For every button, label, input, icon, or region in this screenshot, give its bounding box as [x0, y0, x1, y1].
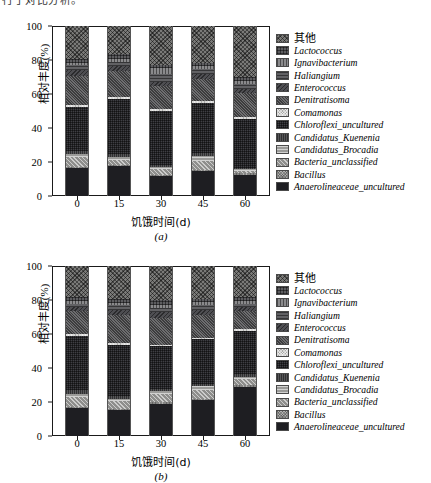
x-tick-mark [77, 196, 78, 200]
legend-swatch-icon [276, 71, 289, 80]
legend: 其他LactococcusIgnavibacteriumHaliangiumEn… [276, 272, 428, 433]
bar-segment [192, 266, 214, 299]
x-tick-mark [245, 436, 246, 440]
stacked-bar[interactable] [233, 266, 257, 436]
legend-item-label: Comamonas [294, 348, 342, 358]
legend-item[interactable]: Chloroflexi_uncultured [276, 359, 428, 371]
legend-item[interactable]: Comamonas [276, 346, 428, 358]
legend-item-label: Candidatus_Brocadia [294, 385, 378, 395]
bar-segment [66, 397, 88, 406]
y-tick-label: 20 [32, 397, 43, 408]
bar-segment [66, 408, 88, 436]
bar-segment [192, 161, 214, 170]
legend-swatch-icon [276, 398, 289, 407]
legend-item[interactable]: Candidatus_Kuenenia [276, 371, 428, 383]
y-axis-label: 相对丰度(%) [35, 268, 51, 360]
x-tick-label: 30 [149, 438, 173, 454]
legend-item[interactable]: Haliangium [276, 309, 428, 321]
stacked-bar[interactable] [191, 26, 215, 196]
legend-item-label: Lactococcus [294, 46, 342, 56]
legend-item[interactable]: Ignavibacterium [276, 297, 428, 309]
subfigure-label: (b) [52, 470, 270, 482]
legend-item-label: Bacillus [294, 410, 325, 420]
bar-group [52, 266, 270, 436]
legend-item[interactable]: Haliangium [276, 69, 428, 81]
bar-segment [234, 175, 256, 196]
bar-segment [66, 311, 88, 334]
legend-item-label: Anaerolineaceae_uncultured [294, 422, 405, 432]
bar-segment [108, 26, 130, 54]
bar-segment [150, 74, 172, 82]
stacked-bar[interactable] [65, 26, 89, 196]
legend-item[interactable]: Chloroflexi_uncultured [276, 119, 428, 131]
legend-item-label: Denitratisoma [294, 95, 349, 105]
bar-segment [234, 331, 256, 374]
x-tick-mark [161, 436, 162, 440]
stacked-bar[interactable] [149, 266, 173, 436]
legend-item[interactable]: Denitratisoma [276, 334, 428, 346]
legend-swatch-icon [276, 422, 289, 431]
legend-item[interactable]: Anaerolineaceae_uncultured [276, 421, 428, 433]
legend-item[interactable]: Lactococcus [276, 44, 428, 56]
legend-item[interactable]: Lactococcus [276, 284, 428, 296]
legend-item[interactable]: Denitratisoma [276, 94, 428, 106]
bar-segment [150, 26, 172, 65]
legend-item[interactable]: Enterococcus [276, 322, 428, 334]
stacked-bar[interactable] [149, 26, 173, 196]
bar-segment [234, 387, 256, 436]
legend-item[interactable]: Bacteria_unclassified [276, 156, 428, 168]
bar-segment [66, 107, 88, 151]
bar-segment [150, 111, 172, 165]
bar-segment [108, 71, 130, 97]
legend-item[interactable]: Candidatus_Brocadia [276, 384, 428, 396]
bar-segment [66, 26, 88, 59]
bar-segment [234, 266, 256, 297]
legend-item-label: Candidatus_Kuenenia [294, 373, 380, 383]
legend-swatch-icon [276, 46, 289, 55]
x-axis: 015304560 [52, 438, 270, 454]
legend-item[interactable]: 其他 [276, 272, 428, 284]
x-axis-label: 饥饿时间(d) [52, 453, 270, 469]
bar-segment [66, 336, 88, 390]
legend-swatch-icon [276, 182, 289, 191]
subfigure-label: (a) [52, 230, 270, 242]
legend-swatch-icon [276, 298, 289, 307]
stacked-bar[interactable] [107, 26, 131, 196]
bar-segment [108, 99, 130, 154]
legend-item[interactable]: 其他 [276, 32, 428, 44]
legend-swatch-icon [276, 323, 289, 332]
bar-segment [66, 76, 88, 106]
legend-item[interactable]: Anaerolineaceae_uncultured [276, 181, 428, 193]
legend-item[interactable]: Bacteria_unclassified [276, 396, 428, 408]
bar-segment [150, 266, 172, 300]
figure-b: 020406080100相对丰度(%)015304560饥饿时间(d)(b)其他… [0, 248, 431, 483]
legend-item[interactable]: Enterococcus [276, 82, 428, 94]
bar-segment [192, 390, 214, 399]
legend-item-label: Bacteria_unclassified [294, 397, 378, 407]
legend-item[interactable]: Ignavibacterium [276, 57, 428, 69]
x-tick-label: 15 [107, 438, 131, 454]
legend: 其他LactococcusIgnavibacteriumHaliangiumEn… [276, 32, 428, 193]
stacked-bar[interactable] [233, 26, 257, 196]
legend-item[interactable]: Candidatus_Kuenenia [276, 131, 428, 143]
legend-swatch-icon [276, 96, 289, 105]
legend-swatch-icon [276, 348, 289, 357]
bar-segment [234, 93, 256, 118]
stacked-bar[interactable] [191, 266, 215, 436]
bar-segment [150, 86, 172, 109]
legend-item[interactable]: Bacillus [276, 408, 428, 420]
x-tick-label: 15 [107, 198, 131, 214]
stacked-bar[interactable] [65, 266, 89, 436]
legend-item[interactable]: Bacillus [276, 168, 428, 180]
bar-segment [192, 171, 214, 196]
legend-item-label: Enterococcus [294, 83, 346, 93]
y-tick-label: 0 [37, 191, 42, 202]
legend-swatch-icon [276, 274, 289, 283]
legend-item[interactable]: Comamonas [276, 106, 428, 118]
x-tick-mark [203, 196, 204, 200]
bar-segment [66, 157, 88, 166]
figure-a: 020406080100相对丰度(%)015304560饥饿时间(d)(a)其他… [0, 8, 431, 248]
bar-segment [150, 394, 172, 403]
stacked-bar[interactable] [107, 266, 131, 436]
legend-item[interactable]: Candidatus_Brocadia [276, 144, 428, 156]
